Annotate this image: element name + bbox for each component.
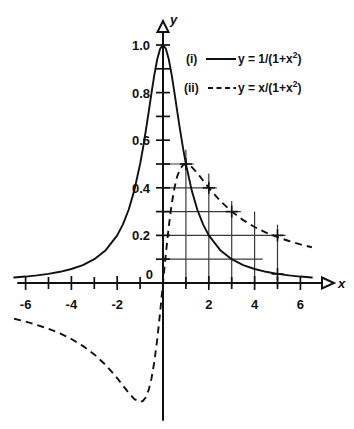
x-tick-label: -4: [66, 297, 78, 312]
x-tick-label: -2: [111, 297, 123, 312]
legend: (i) y = 1/(1+x2) (ii) y = x/(1+x2): [184, 50, 301, 95]
x-tick-label: 4: [251, 297, 259, 312]
figure-container: -6-4-2246 00.20.40.60.81.0 x y (i) y = 1…: [0, 0, 354, 429]
data-point-marker: [272, 229, 284, 241]
y-tick-label: 0.6: [132, 133, 150, 148]
legend-entry-i: (i) y = 1/(1+x2): [186, 50, 301, 66]
y-tick-label: 0.4: [132, 181, 151, 196]
y-axis-tick-labels: 00.20.40.60.81.0: [132, 38, 153, 282]
x-tick-label: -6: [20, 297, 32, 312]
legend-key-ii: (ii): [184, 81, 199, 95]
legend-formula-i-prefix: y = 1/(1+x: [238, 52, 293, 66]
data-point-marker: [203, 182, 215, 194]
y-tick-label: 0.2: [132, 228, 150, 243]
data-point-marker: [272, 268, 284, 280]
legend-formula-ii: y = x/(1+x2): [238, 79, 301, 95]
chart-canvas: -6-4-2246 00.20.40.60.81.0 x y (i) y = 1…: [0, 0, 354, 429]
y-tick-label: 0.8: [132, 86, 150, 101]
legend-formula-i-suffix: ): [297, 52, 301, 66]
gridlines: [162, 150, 286, 286]
y-origin-label: 0: [146, 267, 153, 282]
y-axis-arrowhead: [158, 21, 169, 32]
x-axis-tick-labels: -6-4-2246: [20, 297, 304, 312]
x-tick-label: 2: [205, 297, 212, 312]
y-axis-label: y: [169, 12, 178, 27]
data-point-marker: [180, 158, 192, 170]
legend-formula-i: y = 1/(1+x2): [238, 50, 301, 66]
x-tick-label: 6: [297, 297, 304, 312]
x-axis-arrowhead: [322, 278, 334, 289]
x-axis-label: x: [337, 276, 346, 291]
legend-formula-ii-prefix: y = x/(1+x: [238, 81, 293, 95]
legend-entry-ii: (ii) y = x/(1+x2): [184, 79, 301, 95]
y-tick-label: 1.0: [132, 38, 150, 53]
legend-formula-ii-suffix: ): [297, 81, 301, 95]
legend-key-i: (i): [186, 52, 197, 66]
